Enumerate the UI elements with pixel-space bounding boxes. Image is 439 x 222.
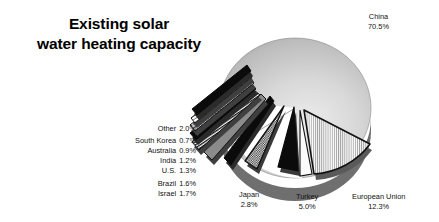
legend-item-value: 1.3%	[179, 166, 196, 175]
legend-item-label: Other	[158, 124, 176, 133]
legend-item-u-s: U.S.1.3%	[135, 167, 196, 174]
callout-japan-name: Japan	[239, 190, 259, 199]
legend-item-value: 0.9%	[179, 146, 196, 155]
legend-item-label: Australia	[147, 146, 176, 155]
callout-china-value: 70.5%	[368, 22, 389, 32]
legend-item-label: U.S.	[162, 166, 176, 175]
pie-chart-graphic	[0, 0, 439, 222]
legend-item-other: Other2.0%	[135, 125, 196, 132]
callout-china: China 70.5%	[368, 12, 389, 31]
legend-item-brazil: Brazil1.6%	[135, 180, 196, 187]
legend-item-value: 1.6%	[179, 179, 196, 188]
chart-figure: Existing solar water heating capacity	[0, 0, 439, 222]
legend-item-label: South Korea	[135, 136, 176, 145]
legend-item-label: Brazil	[158, 179, 176, 188]
callout-turkey-value: 5.0%	[296, 202, 318, 212]
legend-item-label: India	[160, 156, 176, 165]
legend-item-india: India1.2%	[135, 157, 196, 164]
callout-china-name: China	[369, 12, 388, 21]
legend-item-value: 2.0%	[179, 124, 196, 133]
callout-japan-value: 2.8%	[239, 200, 259, 210]
callout-turkey: Turkey 5.0%	[296, 192, 318, 211]
legend-item-south-korea: South Korea0.7%	[135, 137, 196, 144]
callout-japan: Japan 2.8%	[239, 190, 259, 209]
callout-turkey-name: Turkey	[296, 192, 318, 201]
callout-european-union-value: 12.3%	[352, 202, 405, 212]
legend-item-value: 0.7%	[179, 136, 196, 145]
callout-european-union-name: European Union	[352, 192, 405, 201]
callout-european-union: European Union 12.3%	[352, 192, 405, 211]
legend-item-value: 1.7%	[179, 189, 196, 198]
legend-list: Other2.0%South Korea0.7%Australia0.9%Ind…	[135, 125, 196, 200]
legend-item-value: 1.2%	[179, 156, 196, 165]
legend-item-label: Israel	[158, 189, 176, 198]
legend-item-australia: Australia0.9%	[135, 147, 196, 154]
legend-item-israel: Israel1.7%	[135, 190, 196, 197]
